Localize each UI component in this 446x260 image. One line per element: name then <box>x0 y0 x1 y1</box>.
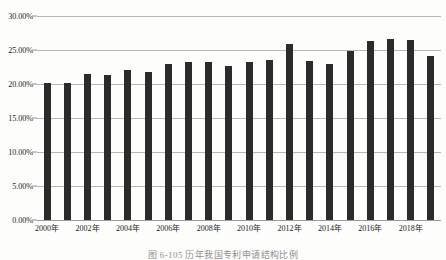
gridline <box>37 220 441 221</box>
y-tick-label: 10.00% <box>8 148 33 157</box>
y-tick-label: 15.00% <box>8 114 33 123</box>
bar <box>407 40 414 220</box>
bar-chart: 30.00%25.00%20.00%15.00%10.00%5.00%0.00%… <box>0 0 446 232</box>
bar <box>124 70 131 220</box>
y-tick-label: 0.00% <box>12 216 33 225</box>
figure-container: 30.00%25.00%20.00%15.00%10.00%5.00%0.00%… <box>0 0 446 260</box>
x-tick-label: 2000年 <box>35 222 59 233</box>
bar <box>84 74 91 220</box>
bar <box>64 83 71 220</box>
bar <box>367 41 374 220</box>
bar <box>387 39 394 220</box>
x-tick-label: 2018年 <box>399 222 423 233</box>
bar <box>306 61 313 220</box>
bar <box>246 62 253 220</box>
figure-caption: 图 6-105 历年我国专利申请结构比例 <box>0 248 446 260</box>
bar <box>225 66 232 220</box>
bar <box>185 62 192 220</box>
bar <box>145 72 152 220</box>
y-axis: 30.00%25.00%20.00%15.00%10.00%5.00%0.00% <box>0 16 37 220</box>
bar <box>205 62 212 220</box>
x-tick-label: 2012年 <box>278 222 302 233</box>
x-tick-label: 2016年 <box>358 222 382 233</box>
y-tick-label: 5.00% <box>12 182 33 191</box>
x-tick-label: 2006年 <box>156 222 180 233</box>
x-axis: 2000年2002年2004年2006年2008年2010年2012年2014年… <box>37 222 441 236</box>
bar-series <box>37 16 441 220</box>
y-tick-label: 30.00% <box>8 12 33 21</box>
x-tick-label: 2010年 <box>237 222 261 233</box>
bar <box>347 51 354 220</box>
y-tick-label: 20.00% <box>8 80 33 89</box>
bar <box>44 83 51 220</box>
bar <box>427 56 434 220</box>
bar <box>165 64 172 220</box>
x-tick-label: 2008年 <box>197 222 221 233</box>
plot-area <box>37 16 441 220</box>
x-tick-label: 2004年 <box>116 222 140 233</box>
y-tick-label: 25.00% <box>8 46 33 55</box>
bar <box>326 64 333 220</box>
x-tick-label: 2002年 <box>76 222 100 233</box>
x-tick-label: 2014年 <box>318 222 342 233</box>
bar <box>266 60 273 220</box>
bar <box>104 75 111 220</box>
bar <box>286 44 293 220</box>
